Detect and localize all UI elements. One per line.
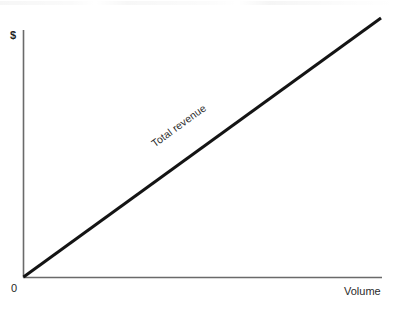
cvp-total-revenue-chart: $ 0 Volume Total revenue <box>0 0 397 311</box>
y-axis-label: $ <box>10 30 16 41</box>
chart-plot-area <box>0 0 397 311</box>
x-axis-label: Volume <box>344 286 381 297</box>
origin-label: 0 <box>11 283 17 294</box>
total-revenue-line <box>24 18 382 277</box>
